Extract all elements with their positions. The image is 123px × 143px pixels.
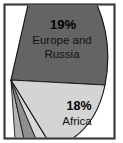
slice-europe-russia-name-line1: Europe and — [32, 34, 91, 46]
pie-chart-svg: 19% Europe and Russia 18% Africa — [0, 0, 123, 143]
slice-europe-russia-name-line2: Russia — [44, 48, 80, 60]
slice-africa-pct-label: 18% — [66, 99, 91, 113]
pie-chart-screenshot: 19% Europe and Russia 18% Africa — [0, 0, 123, 143]
slice-europe-russia-pct-label: 19% — [50, 17, 76, 32]
slice-africa-name-label: Africa — [62, 115, 92, 127]
